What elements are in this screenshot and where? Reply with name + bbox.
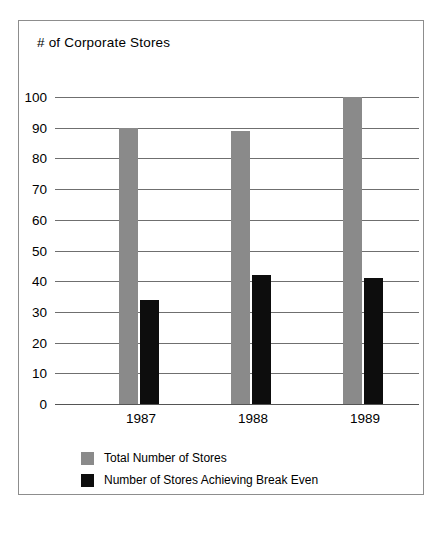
legend-label-breakeven: Number of Stores Achieving Break Even bbox=[104, 473, 318, 487]
y-axis-tick-label: 0 bbox=[39, 397, 47, 412]
bar-breakeven-stores bbox=[364, 278, 383, 404]
legend-item-breakeven: Number of Stores Achieving Break Even bbox=[81, 473, 318, 487]
chart-frame: # of Corporate Stores 010203040506070809… bbox=[18, 20, 424, 495]
y-axis-tick-label: 60 bbox=[32, 212, 47, 227]
bar-total-stores bbox=[231, 131, 250, 404]
x-axis-tick-label: 1988 bbox=[223, 411, 283, 426]
bar-group: 1987 bbox=[111, 97, 171, 404]
y-axis-tick-label: 50 bbox=[32, 243, 47, 258]
x-axis-tick-label: 1989 bbox=[335, 411, 395, 426]
bar-group: 1988 bbox=[223, 97, 283, 404]
y-axis-tick-label: 90 bbox=[32, 120, 47, 135]
y-axis-tick-label: 40 bbox=[32, 274, 47, 289]
bar-breakeven-stores bbox=[252, 275, 271, 404]
bar-breakeven-stores bbox=[140, 300, 159, 404]
y-axis-tick-label: 20 bbox=[32, 335, 47, 350]
gridline bbox=[55, 404, 419, 405]
y-axis-tick-label: 80 bbox=[32, 151, 47, 166]
y-axis-tick-label: 70 bbox=[32, 182, 47, 197]
legend-item-total: Total Number of Stores bbox=[81, 451, 318, 465]
bar-group: 1989 bbox=[335, 97, 395, 404]
bar-total-stores bbox=[343, 97, 362, 404]
chart-title: # of Corporate Stores bbox=[37, 35, 170, 50]
y-axis-tick-label: 30 bbox=[32, 304, 47, 319]
x-axis-tick-label: 1987 bbox=[111, 411, 171, 426]
y-axis-tick-label: 10 bbox=[32, 366, 47, 381]
chart-legend: Total Number of Stores Number of Stores … bbox=[81, 451, 318, 495]
legend-swatch-breakeven bbox=[81, 474, 94, 487]
plot-area: 0102030405060708090100198719881989 bbox=[55, 97, 419, 404]
y-axis-tick-label: 100 bbox=[24, 90, 47, 105]
legend-swatch-total bbox=[81, 452, 94, 465]
legend-label-total: Total Number of Stores bbox=[104, 451, 227, 465]
bar-total-stores bbox=[119, 128, 138, 404]
